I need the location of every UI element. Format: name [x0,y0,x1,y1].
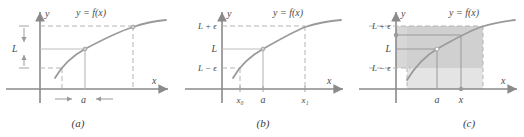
panel-b: y x y = f(x) L + ϵ L L − ϵ x₀ a x₁ (b) [175,0,350,137]
y-tick-label-L-plus-eps: L + ϵ [371,21,391,31]
y-tick-label-L-minus-eps: L − ϵ [197,63,217,73]
panel-caption-a: (a) [72,117,85,130]
x-tick-label-a: a [81,94,86,105]
y-axis-label: y [400,8,406,19]
limit-figure: y x y = f(x) L a (a) [0,0,524,137]
point-at-a [435,47,439,51]
y-tick-label-L-plus-eps: L + ϵ [197,21,217,31]
x-tick-label-x1: x₁ [300,95,308,105]
panel-c: y x y = f(x) L + ϵ L L − ϵ a x (c) [349,0,524,137]
y-tick-label-L-minus-eps: L − ϵ [371,63,391,73]
y-tick-label-L: L [384,43,391,54]
y-tick-label-L: L [210,43,217,54]
point-on-y-axis [394,33,398,37]
y-tick-label-L: L [11,43,18,54]
x-axis-label: x [326,75,332,86]
panel-a: y x y = f(x) L a (a) [0,0,175,137]
point-at-a [83,47,87,51]
point-right [131,25,135,29]
curve-label: y = f(x) [75,7,107,19]
curve-label: y = f(x) [448,7,480,19]
curve-label: y = f(x) [272,7,304,19]
x-axis-label: x [500,75,506,86]
x-tick-label-a: a [435,94,440,105]
point-at-a [261,47,265,51]
panel-caption-c: (c) [463,117,476,130]
x-tick-label-a: a [261,94,266,105]
y-axis-label: y [226,8,232,19]
x-tick-label-x: x [458,94,464,105]
y-axis-label: y [44,8,50,19]
x-axis-label: x [151,75,157,86]
point-on-x-axis [459,87,463,91]
x-tick-label-x0: x₀ [235,95,243,105]
panel-caption-b: (b) [257,117,270,130]
